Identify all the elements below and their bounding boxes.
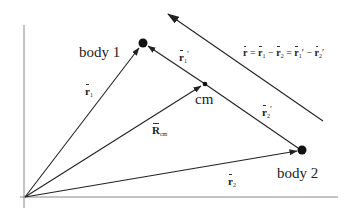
r2-symbol: r [228,175,233,187]
cm-label: cm [195,92,213,107]
r2-prime-label: r2′ [262,105,272,119]
r1-prime-label: r1′ [179,50,189,64]
r1-prime-mark: ′ [187,49,189,59]
Rcm-label: Rcm [152,125,167,137]
vector-Rcm [25,86,201,197]
body1-label: body 1 [79,45,120,60]
r1-subscript: 1 [90,92,93,98]
eq-r: r [243,47,247,58]
r2-prime-mark: ′ [270,104,272,114]
vector-r [168,14,323,121]
eq-r1-prime: r [294,47,298,58]
r1-label: r1 [85,86,93,98]
r1-symbol: r [85,85,90,97]
r2-subscript: 2 [233,182,236,188]
eq-minus-2: − [304,47,315,58]
eq-minus-1: − [266,47,277,58]
two-body-diagram [0,0,353,213]
body2-point [298,146,307,155]
eq-r1: r [258,47,262,58]
eq-equals-1: = [247,47,258,58]
relative-position-equation: r = r1 − r2 = r1′ − r2′ [243,48,324,59]
Rcm-symbol: R [152,124,160,136]
vector-r1 [25,48,139,197]
eq-prime-2: ′ [322,47,324,58]
vector-r2 [25,151,297,197]
eq-equals-2: = [284,47,295,58]
cm-point [203,82,208,87]
r1-prime-symbol: r [179,51,184,63]
r2-prime-symbol: r [262,106,267,118]
Rcm-subscript: cm [160,131,167,137]
body2-label: body 2 [277,166,318,181]
eq-r2: r [276,47,280,58]
vector-r1-prime [148,46,205,84]
eq-r2-prime: r [315,47,319,58]
r2-label: r2 [228,176,236,188]
body1-point [139,39,148,48]
